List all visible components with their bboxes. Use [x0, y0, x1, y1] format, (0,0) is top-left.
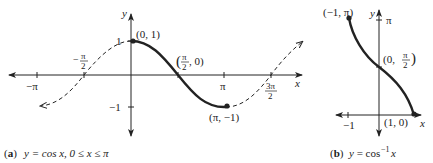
svg-text:π: π — [403, 50, 408, 60]
y-axis-label-b: y — [369, 7, 375, 19]
label-point-top: (−1, π) — [323, 6, 353, 19]
svg-text:2: 2 — [182, 62, 187, 72]
tick-label-three-half-pi: 3π 2 — [265, 81, 277, 101]
svg-text:π: π — [81, 51, 86, 61]
svg-text:, 0): , 0) — [189, 55, 204, 68]
svg-text:2: 2 — [403, 60, 408, 70]
svg-text:y = cos: y = cos — [348, 147, 380, 159]
svg-text:(: ( — [176, 53, 181, 70]
tick-label-pi: π — [220, 80, 226, 92]
cos-curve-solid — [131, 41, 226, 107]
tick-label-y-neg1: −1 — [109, 101, 121, 113]
svg-text:): ) — [411, 50, 416, 67]
tick-label-neg-pi: −π — [26, 80, 38, 92]
svg-text:(b): (b) — [330, 147, 344, 160]
svg-text:2: 2 — [268, 91, 273, 101]
figure-canvas: y x 1 −1 (0, 1) −π − π 2 ( π 2 , 0) π 3π… — [0, 0, 433, 163]
tick-label-b-neg1: −1 — [343, 119, 355, 131]
x-axis-label-a: x — [294, 77, 300, 89]
svg-text:−: − — [73, 54, 79, 65]
graph-b: y x (−1, π) π (0, π 2 ) −1 (1, 0) (b) y … — [323, 6, 425, 160]
svg-text:3π: 3π — [266, 81, 276, 91]
svg-text:(a): (a) — [4, 147, 17, 160]
tick-label-y-1: 1 — [116, 35, 122, 47]
graph-a: y x 1 −1 (0, 1) −π − π 2 ( π 2 , 0) π 3π… — [4, 7, 302, 160]
svg-text:2: 2 — [81, 61, 86, 71]
caption-b: (b) y = cos −1 x — [330, 145, 396, 160]
caption-a: (a) y = cos x, 0 ≤ x ≤ π — [4, 147, 109, 160]
x-axis-label-b: x — [419, 117, 425, 129]
dashed-curve-left — [41, 41, 131, 106]
y-axis-label-a: y — [121, 7, 127, 19]
label-point-max: (0, 1) — [136, 28, 160, 41]
tick-label-neg-half-pi: − π 2 — [73, 51, 88, 71]
label-point-min: (π, −1) — [209, 111, 239, 124]
svg-text:y = cos x, 0 ≤ x ≤ π: y = cos x, 0 ≤ x ≤ π — [23, 147, 109, 159]
svg-text:(0,: (0, — [383, 53, 395, 66]
point-bottom — [411, 111, 416, 116]
label-point-bottom: (1, 0) — [384, 116, 408, 129]
svg-text:−1: −1 — [381, 145, 390, 154]
svg-text:x: x — [390, 147, 396, 159]
point-min — [224, 103, 229, 108]
svg-text:π: π — [182, 52, 187, 62]
label-point-zero: ( π 2 , 0) — [176, 52, 204, 72]
tick-label-b-pi: π — [386, 14, 392, 26]
point-max — [130, 38, 135, 43]
label-point-mid: (0, π 2 ) — [383, 50, 416, 70]
